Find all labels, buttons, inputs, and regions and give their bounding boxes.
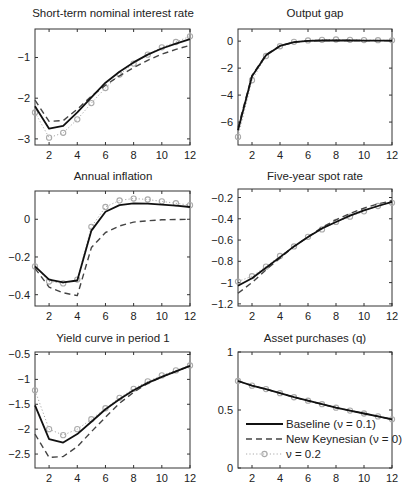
series-marker [89,100,94,105]
x-tick-label: 10 [358,310,370,322]
x-tick-label: 4 [74,310,80,322]
panel-asset-purchases: Asset purchases (q) 2468101200.51 [218,332,398,484]
plot-area [35,352,190,468]
x-tick-label: 8 [131,472,137,484]
x-tick-label: 4 [74,472,80,484]
y-tick-label: −1 [220,277,233,289]
panel-title: Yield curve in period 1 [56,332,169,344]
y-tick-label: 0 [227,35,233,47]
y-tick-label: 0.5 [218,404,233,416]
y-tick-label: −0.8 [211,255,233,267]
legend-label-new-keynesian: New Keynesian (ν = 0) [286,433,402,445]
x-tick-label: 12 [184,310,196,322]
series-line [35,203,190,282]
series-line [35,36,190,137]
series-line [35,366,190,458]
y-tick-label: −0.2 [211,192,233,204]
y-tick-label: −2.5 [8,448,30,460]
figure-canvas: Short-term nominal interest rate 2468101… [0,0,408,493]
series-line [35,366,190,443]
series-line [238,381,392,419]
y-tick-label: −0.4 [8,289,30,301]
x-tick-label: 12 [386,472,398,484]
panel-title: Five-year spot rate [267,170,363,182]
chart-figure: Short-term nominal interest rate 2468101… [0,0,408,493]
panel-five-year-spot-rate: Five-year spot rate 24681012−1.2−1−0.8−0… [211,170,398,322]
panel-title: Short-term nominal interest rate [32,7,194,19]
series-line [238,203,392,282]
y-tick-label: 0 [227,462,233,474]
y-tick-label: −1 [17,51,30,63]
y-tick-label: 0 [24,213,30,225]
x-tick-label: 4 [277,472,283,484]
x-tick-label: 12 [184,472,196,484]
y-tick-label: −0.5 [8,348,30,360]
legend-label-nu02: ν = 0.2 [286,448,321,460]
x-tick-label: 6 [102,472,108,484]
x-tick-label: 2 [249,310,255,322]
y-tick-label: −0.6 [211,234,233,246]
x-tick-label: 6 [102,310,108,322]
series-marker [75,117,80,122]
x-tick-label: 8 [333,310,339,322]
series-line [238,40,392,137]
x-tick-label: 2 [46,149,52,161]
series-line [35,199,190,284]
y-tick-label: −3 [17,133,30,145]
x-tick-label: 12 [386,149,398,161]
panel-annual-inflation: Annual inflation 24681012−0.4−0.20 [8,170,196,322]
legend-label-baseline: Baseline (ν = 0.1) [286,418,376,430]
series-marker [103,204,108,209]
x-tick-label: 2 [249,149,255,161]
x-tick-label: 10 [156,472,168,484]
panel-title: Annual inflation [74,170,153,182]
y-tick-label: −1.5 [8,398,30,410]
x-tick-label: 2 [46,310,52,322]
series-line [238,381,392,419]
series-line [35,45,190,121]
series-line [238,202,392,286]
x-tick-label: 10 [358,149,370,161]
x-tick-label: 10 [358,472,370,484]
plot-area [238,29,392,145]
series-marker [61,130,66,135]
x-tick-label: 12 [184,149,196,161]
x-tick-label: 4 [74,149,80,161]
panel-title: Output gap [287,7,344,19]
plot-area [238,189,392,306]
series-marker [61,433,66,438]
legend: Baseline (ν = 0.1) New Keynesian (ν = 0)… [246,418,402,460]
x-tick-label: 2 [249,472,255,484]
x-tick-label: 8 [131,310,137,322]
series-line [238,381,392,419]
x-tick-label: 6 [102,149,108,161]
y-tick-label: −2 [17,92,30,104]
x-tick-label: 8 [333,472,339,484]
y-tick-label: −2 [220,62,233,74]
y-tick-label: −0.2 [8,251,30,263]
x-tick-label: 8 [131,149,137,161]
panel-yield-curve: Yield curve in period 1 24681012−2.5−2−1… [8,332,196,484]
x-tick-label: 4 [277,310,283,322]
series-line [238,41,392,131]
x-tick-label: 6 [305,310,311,322]
series-line [238,201,392,294]
x-tick-label: 2 [46,472,52,484]
x-tick-label: 8 [333,149,339,161]
y-tick-label: −4 [220,89,233,101]
panel-title: Asset purchases (q) [264,332,366,344]
y-tick-label: −6 [220,116,233,128]
y-tick-label: −1 [17,373,30,385]
panel-output-gap: Output gap 24681012−6−4−20 [220,7,398,161]
x-tick-label: 12 [386,310,398,322]
y-tick-label: 1 [227,346,233,358]
series-marker [46,135,51,140]
y-tick-label: −2 [17,423,30,435]
x-tick-label: 4 [277,149,283,161]
x-tick-label: 6 [305,149,311,161]
x-tick-label: 10 [156,310,168,322]
panel-short-term-rate: Short-term nominal interest rate 2468101… [17,7,196,161]
series-line [238,41,392,128]
x-tick-label: 6 [305,472,311,484]
x-tick-label: 10 [156,149,168,161]
